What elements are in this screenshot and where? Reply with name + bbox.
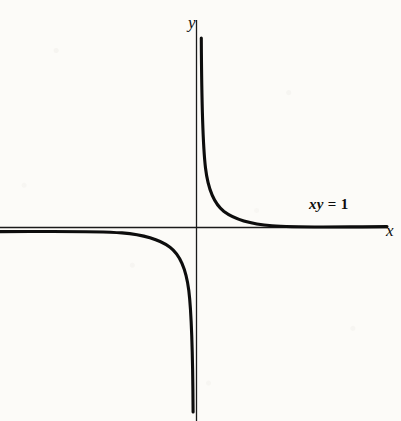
curve-equation-label: xy=1 (309, 196, 348, 213)
equation-rhs: 1 (341, 196, 349, 212)
equation-equals-sign: = (328, 196, 337, 212)
x-axis-label: x (386, 222, 394, 239)
y-axis-label: y (188, 14, 196, 31)
hyperbola-branch-quadrant-1 (201, 38, 387, 227)
hyperbola-figure: y x xy=1 (0, 0, 401, 421)
equation-lhs: xy (309, 196, 324, 212)
hyperbola-branch-quadrant-3 (0, 231, 193, 412)
